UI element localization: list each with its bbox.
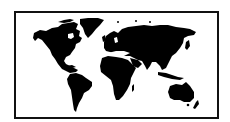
island-dot	[135, 20, 137, 22]
greenland	[80, 18, 104, 38]
japan	[185, 40, 190, 50]
new-zealand	[193, 100, 199, 109]
arctic-islands	[58, 19, 74, 23]
south-america	[67, 73, 92, 112]
australia	[168, 82, 194, 102]
island-dot	[117, 21, 119, 23]
north-america	[33, 22, 82, 73]
africa	[100, 56, 136, 100]
madagascar	[132, 84, 134, 92]
tasmania	[187, 104, 190, 107]
indonesia	[158, 72, 184, 80]
world-map	[0, 0, 230, 122]
island-dot	[149, 21, 151, 23]
